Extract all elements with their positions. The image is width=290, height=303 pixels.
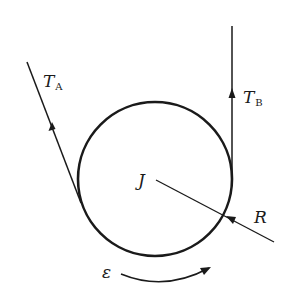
label-subscript: B — [255, 97, 262, 108]
label-tension-a: TA — [43, 73, 63, 92]
arrow-a-icon — [49, 122, 56, 131]
label-tension-b: TB — [243, 89, 263, 108]
epsilon-arc — [121, 268, 209, 282]
label-text: T — [243, 87, 254, 107]
pulley-diagram: TA TB J R ε — [0, 0, 290, 303]
arrow-b-icon — [229, 88, 236, 98]
label-inertia: J — [138, 172, 145, 189]
label-radius: R — [254, 209, 267, 226]
arrow-r-icon — [226, 216, 236, 224]
diagram-graphics — [0, 0, 290, 303]
label-subscript: A — [55, 81, 62, 92]
label-angular-accel: ε — [102, 264, 111, 281]
pulley-circle — [78, 102, 232, 256]
label-text: T — [43, 71, 54, 91]
